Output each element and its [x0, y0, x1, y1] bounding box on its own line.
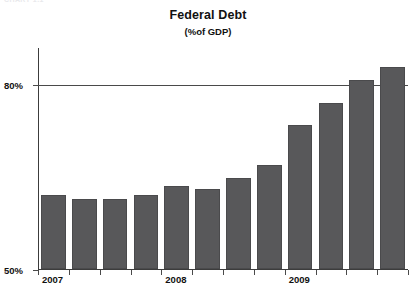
chart-title: Federal Debt — [0, 8, 416, 22]
x-tick — [285, 270, 286, 275]
x-tick — [346, 270, 347, 275]
x-axis-label-2007: 2007 — [42, 274, 63, 285]
x-tick — [69, 270, 70, 275]
x-tick — [131, 270, 132, 275]
y-tick-label-50: 50% — [4, 265, 23, 276]
chart-subtitle: (%of GDP) — [0, 26, 416, 37]
x-axis-label-2008: 2008 — [165, 274, 186, 285]
y-axis-line — [38, 48, 39, 270]
bar — [257, 165, 282, 269]
y-tick-label-80: 80% — [4, 80, 23, 91]
clipped-header-text: CHART 1.1 — [4, 0, 44, 4]
bar — [164, 186, 189, 269]
x-tick — [192, 270, 193, 275]
bar — [380, 67, 405, 269]
bar — [41, 195, 66, 269]
x-tick — [100, 270, 101, 275]
bar — [134, 195, 159, 269]
x-tick — [408, 270, 409, 275]
bar — [319, 103, 344, 270]
x-tick — [377, 270, 378, 275]
bar — [72, 199, 97, 269]
x-tick — [161, 270, 162, 275]
bar — [288, 125, 313, 269]
y-tick-80 — [33, 85, 39, 86]
x-tick — [254, 270, 255, 275]
x-tick — [316, 270, 317, 275]
bar — [349, 80, 374, 269]
bar — [226, 178, 251, 269]
x-tick — [38, 270, 39, 275]
x-axis-label-2009: 2009 — [289, 274, 310, 285]
plot-area: 50%80% — [38, 48, 408, 270]
bar — [195, 189, 220, 269]
federal-debt-chart: CHART 1.1 Federal Debt (%of GDP) 50%80% … — [0, 0, 416, 294]
bar — [103, 199, 128, 269]
x-tick — [223, 270, 224, 275]
